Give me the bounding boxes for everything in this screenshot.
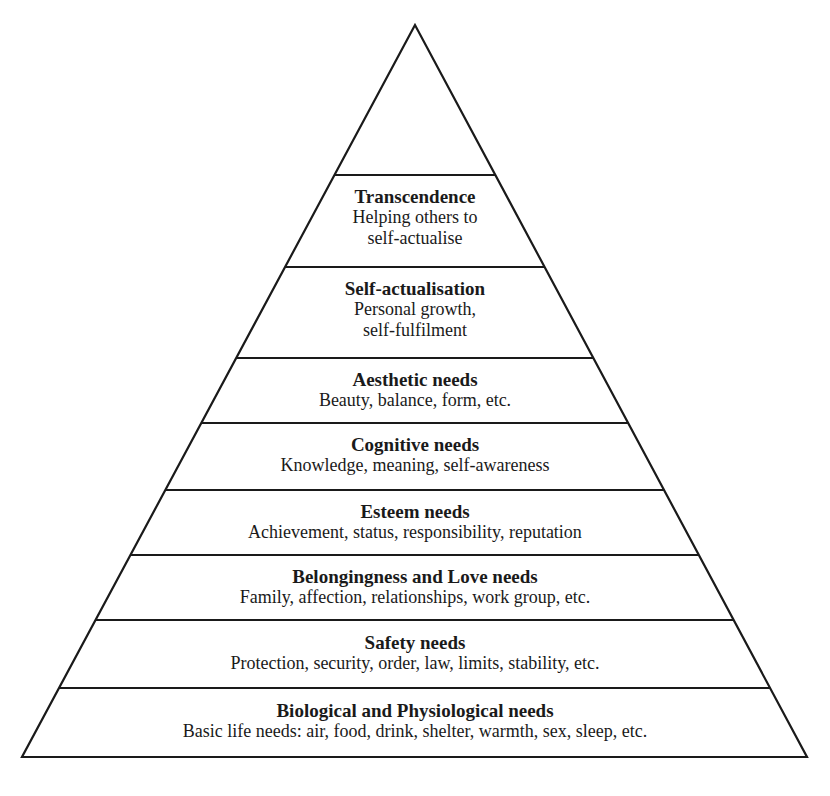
level-desc: Knowledge, meaning, self-awareness bbox=[0, 455, 830, 476]
level-esteem: Esteem needs Achievement, status, respon… bbox=[0, 501, 830, 543]
level-safety: Safety needs Protection, security, order… bbox=[0, 632, 830, 674]
level-belongingness: Belongingness and Love needs Family, aff… bbox=[0, 566, 830, 608]
level-title: Cognitive needs bbox=[0, 434, 830, 455]
level-desc: Achievement, status, responsibility, rep… bbox=[0, 522, 830, 543]
level-desc: Protection, security, order, law, limits… bbox=[0, 653, 830, 674]
level-desc: Personal growth, bbox=[0, 299, 830, 320]
level-biological: Biological and Physiological needs Basic… bbox=[0, 700, 830, 742]
level-transcendence: Transcendence Helping others to self-act… bbox=[0, 186, 830, 249]
level-title: Esteem needs bbox=[0, 501, 830, 522]
level-title: Biological and Physiological needs bbox=[0, 700, 830, 721]
level-desc: self-actualise bbox=[0, 228, 830, 249]
level-title: Belongingness and Love needs bbox=[0, 566, 830, 587]
level-desc: self-fulfilment bbox=[0, 320, 830, 341]
level-title: Aesthetic needs bbox=[0, 369, 830, 390]
level-title: Self-actualisation bbox=[0, 278, 830, 299]
level-self-actualisation: Self-actualisation Personal growth, self… bbox=[0, 278, 830, 341]
level-desc: Helping others to bbox=[0, 207, 830, 228]
level-desc: Beauty, balance, form, etc. bbox=[0, 390, 830, 411]
level-desc: Basic life needs: air, food, drink, shel… bbox=[0, 721, 830, 742]
level-title: Safety needs bbox=[0, 632, 830, 653]
level-aesthetic: Aesthetic needs Beauty, balance, form, e… bbox=[0, 369, 830, 411]
level-desc: Family, affection, relationships, work g… bbox=[0, 587, 830, 608]
level-title: Transcendence bbox=[0, 186, 830, 207]
level-cognitive: Cognitive needs Knowledge, meaning, self… bbox=[0, 434, 830, 476]
